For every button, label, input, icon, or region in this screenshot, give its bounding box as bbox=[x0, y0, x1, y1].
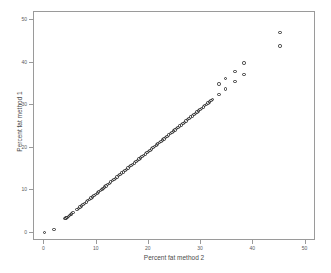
x-axis-label: Percent fat method 2 bbox=[33, 253, 315, 262]
x-tick-label: 40 bbox=[242, 245, 262, 251]
data-point-outlier bbox=[224, 77, 227, 80]
data-point bbox=[217, 93, 220, 96]
x-tick-label: 0 bbox=[33, 245, 53, 251]
x-tick-mark bbox=[43, 240, 44, 244]
x-tick-mark bbox=[96, 240, 97, 244]
y-tick-label: 50 bbox=[9, 16, 27, 22]
y-tick-mark bbox=[29, 189, 33, 190]
x-tick-label: 20 bbox=[138, 245, 158, 251]
data-point-outlier bbox=[278, 31, 281, 34]
y-axis-label: Percent fat method 1 bbox=[15, 47, 24, 197]
data-point bbox=[233, 80, 236, 83]
y-tick-mark bbox=[29, 147, 33, 148]
data-point bbox=[43, 231, 46, 234]
x-tick-mark bbox=[305, 240, 306, 244]
data-point bbox=[71, 211, 74, 214]
data-point-outlier bbox=[242, 61, 245, 64]
data-point bbox=[278, 44, 281, 47]
figure-title bbox=[0, 0, 331, 9]
y-tick-mark bbox=[29, 104, 33, 105]
x-tick-mark bbox=[252, 240, 253, 244]
data-point bbox=[211, 98, 214, 101]
plot-frame bbox=[33, 11, 315, 240]
data-point bbox=[242, 73, 245, 76]
data-point-outlier bbox=[217, 82, 220, 85]
scatter-plot-figure: 01020304050 01020304050 Percent fat meth… bbox=[0, 0, 331, 273]
data-point-outlier bbox=[233, 70, 236, 73]
x-tick-mark bbox=[200, 240, 201, 244]
y-tick-mark bbox=[29, 232, 33, 233]
y-tick-label: 0 bbox=[9, 229, 27, 235]
data-point bbox=[224, 87, 227, 90]
y-tick-mark bbox=[29, 19, 33, 20]
x-tick-label: 10 bbox=[86, 245, 106, 251]
x-tick-label: 50 bbox=[295, 245, 315, 251]
x-tick-label: 30 bbox=[190, 245, 210, 251]
x-tick-mark bbox=[148, 240, 149, 244]
data-point bbox=[52, 228, 55, 231]
y-tick-mark bbox=[29, 62, 33, 63]
data-points-layer bbox=[34, 12, 314, 239]
